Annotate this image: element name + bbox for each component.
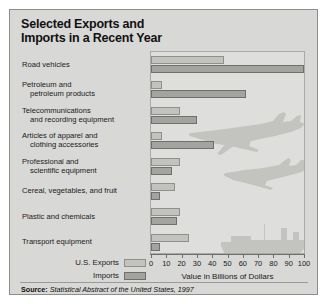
- x-tick: [212, 254, 213, 258]
- bar-group: [151, 158, 304, 183]
- category-label: Road vehicles: [22, 60, 148, 69]
- category-label-line: Professional and: [22, 157, 148, 166]
- category-label-line: Transport equipment: [22, 237, 148, 246]
- bar-imports: [151, 65, 304, 73]
- bar-exports: [151, 132, 162, 140]
- x-tick: [228, 254, 229, 258]
- chart-legend: U.S. Exports Imports: [22, 257, 146, 283]
- source-prefix: Source:: [21, 285, 48, 294]
- source-note: Source: Statistical Abstract of the Unit…: [21, 285, 194, 294]
- category-label: Petroleum andpetroleum products: [22, 80, 148, 98]
- category-label-line: clothing accessories: [22, 140, 148, 149]
- x-axis-tick-labels: 0102030405060708090100: [150, 259, 305, 271]
- bar-group: [151, 183, 304, 208]
- title-line-1: Selected Exports and: [21, 18, 251, 32]
- x-tick: [166, 254, 167, 258]
- legend-label-imports: Imports: [93, 271, 119, 280]
- category-axis-labels: Road vehiclesPetroleum andpetroleum prod…: [22, 51, 148, 254]
- category-label-line: scientific equipment: [22, 166, 148, 175]
- bar-exports: [151, 56, 224, 64]
- category-label: Professional andscientific equipment: [22, 157, 148, 175]
- category-label: Telecommunicationsand recording equipmen…: [22, 106, 148, 124]
- category-label-line: Telecommunications: [22, 106, 148, 115]
- x-tick: [243, 254, 244, 258]
- category-label: Plastic and chemicals: [22, 212, 148, 221]
- x-tick-label: 20: [177, 259, 185, 268]
- category-label-line: Petroleum and: [22, 80, 148, 89]
- bar-group: [151, 234, 304, 254]
- bar-exports: [151, 107, 180, 115]
- bar-imports: [151, 167, 172, 175]
- x-tick-label: 90: [285, 259, 293, 268]
- category-label-line: Road vehicles: [22, 60, 148, 69]
- x-tick-label: 30: [193, 259, 201, 268]
- x-tick-label: 60: [239, 259, 247, 268]
- x-tick-label: 100: [298, 259, 311, 268]
- bar-imports: [151, 192, 160, 200]
- x-tick-label: 70: [254, 259, 262, 268]
- page-title: Selected Exports and Imports in a Recent…: [21, 18, 251, 45]
- category-label: Transport equipment: [22, 237, 148, 246]
- title-line-2: Imports in a Recent Year: [21, 32, 251, 46]
- bar-imports: [151, 90, 246, 98]
- x-axis-ticks: [150, 254, 305, 258]
- bar-group: [151, 132, 304, 157]
- legend-item-imports: Imports: [22, 270, 146, 281]
- category-label: Articles of apparel andclothing accessor…: [22, 131, 148, 149]
- category-label-line: petroleum products: [22, 89, 148, 98]
- bar-imports: [151, 116, 197, 124]
- bar-imports: [151, 141, 214, 149]
- legend-swatch-exports: [124, 259, 146, 267]
- bar-imports: [151, 243, 160, 251]
- source-text: Statistical Abstract of the United State…: [50, 285, 194, 294]
- x-axis-title: Value in Billions of Dollars: [150, 272, 305, 281]
- bar-exports: [151, 81, 162, 89]
- x-tick-label: 80: [269, 259, 277, 268]
- x-tick: [151, 254, 152, 258]
- category-label-line: Cereal, vegetables, and fruit: [22, 186, 148, 195]
- category-label-line: and recording equipment: [22, 115, 148, 124]
- bar-exports: [151, 208, 180, 216]
- bar-exports: [151, 234, 189, 242]
- legend-label-exports: U.S. Exports: [75, 258, 119, 267]
- x-tick: [182, 254, 183, 258]
- category-label-line: Plastic and chemicals: [22, 212, 148, 221]
- x-tick-label: 0: [149, 259, 153, 268]
- x-tick: [289, 254, 290, 258]
- legend-item-exports: U.S. Exports: [22, 257, 146, 268]
- divider: [20, 282, 308, 283]
- x-tick: [304, 254, 305, 258]
- category-label: Cereal, vegetables, and fruit: [22, 186, 148, 195]
- bar-group: [151, 208, 304, 233]
- bar-group: [151, 56, 304, 81]
- x-tick-label: 40: [208, 259, 216, 268]
- plot-area: [150, 51, 305, 254]
- bar-imports: [151, 217, 177, 225]
- bar-exports: [151, 183, 175, 191]
- legend-swatch-imports: [124, 272, 146, 280]
- x-tick-label: 50: [223, 259, 231, 268]
- x-tick: [273, 254, 274, 258]
- bar-groups: [151, 52, 304, 253]
- x-tick: [197, 254, 198, 258]
- x-tick-label: 10: [162, 259, 170, 268]
- bar-exports: [151, 158, 180, 166]
- category-label-line: Articles of apparel and: [22, 131, 148, 140]
- bar-group: [151, 107, 304, 132]
- bar-group: [151, 81, 304, 106]
- x-tick: [258, 254, 259, 258]
- chart-figure: Selected Exports and Imports in a Recent…: [9, 9, 318, 295]
